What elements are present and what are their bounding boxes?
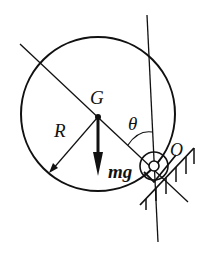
weight-arrowhead-icon bbox=[93, 152, 103, 176]
vertical-line bbox=[147, 15, 158, 242]
label-R: R bbox=[53, 120, 66, 141]
label-theta: θ bbox=[128, 113, 137, 134]
physics-diagram: G R θ mg O bbox=[0, 0, 206, 257]
line-GO bbox=[20, 44, 188, 202]
label-G: G bbox=[90, 87, 104, 108]
label-mg: mg bbox=[108, 161, 132, 182]
label-O: O bbox=[170, 140, 183, 160]
